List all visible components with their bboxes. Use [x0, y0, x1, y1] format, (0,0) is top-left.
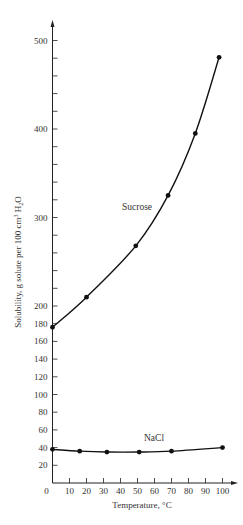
series-sucrose [50, 55, 221, 330]
y-tick-label: 60 [39, 425, 49, 435]
x-tick-label: 80 [184, 486, 194, 496]
data-point-marker [193, 131, 198, 136]
y-tick-label: 140 [34, 354, 48, 364]
x-tick-label: 70 [167, 486, 177, 496]
solubility-chart: 20406080100120140160180200300400500 0102… [0, 0, 243, 525]
series-line [53, 57, 220, 327]
x-axis-title: Temperature, °C [112, 500, 171, 510]
data-point-marker [133, 243, 138, 248]
x-tick-label: 20 [82, 486, 92, 496]
x-tick-label: 50 [133, 486, 143, 496]
nacl-label: NaCl [144, 433, 164, 443]
x-ticks: 0102030405060708090100 [44, 478, 230, 496]
y-tick-label: 300 [34, 213, 48, 223]
data-point-marker [166, 193, 171, 198]
x-tick-label: 0 [44, 486, 49, 496]
y-tick-label: 80 [39, 407, 49, 417]
data-point-marker [169, 449, 174, 454]
data-point-marker [50, 447, 55, 452]
y-tick-label: 200 [34, 301, 48, 311]
data-point-marker [137, 450, 142, 455]
x-tick-label: 30 [99, 486, 109, 496]
y-ticks: 20406080100120140160180200300400500 [34, 36, 58, 471]
x-axis-arrow-icon [231, 481, 238, 485]
y-axis-arrow-icon [51, 20, 55, 27]
y-tick-label: 40 [39, 443, 49, 453]
y-axis-title: Solubility, g solute per 100 cm3 H2O [13, 196, 24, 328]
y-tick-label: 20 [39, 460, 49, 470]
x-tick-label: 100 [216, 486, 230, 496]
x-tick-label: 40 [116, 486, 126, 496]
y-tick-label: 100 [34, 390, 48, 400]
data-point-marker [217, 55, 222, 60]
y-tick-label: 400 [34, 124, 48, 134]
x-tick-label: 60 [150, 486, 160, 496]
series-group [50, 55, 225, 455]
y-tick-label: 160 [34, 336, 48, 346]
data-point-marker [77, 449, 82, 454]
y-axis-title-main: Solubility, g solute per 100 cm [13, 217, 23, 327]
data-point-marker [50, 325, 55, 330]
series-nacl [50, 445, 225, 454]
y-tick-label: 120 [34, 372, 48, 382]
x-tick-label: 90 [201, 486, 211, 496]
y-tick-label: 180 [34, 319, 48, 329]
y-axis-title-o: O [13, 196, 23, 203]
data-point-marker [84, 295, 89, 300]
data-point-marker [220, 445, 225, 450]
y-tick-label: 500 [34, 36, 48, 46]
x-tick-label: 10 [65, 486, 75, 496]
data-point-marker [105, 450, 110, 455]
sucrose-label: Sucrose [122, 202, 152, 212]
